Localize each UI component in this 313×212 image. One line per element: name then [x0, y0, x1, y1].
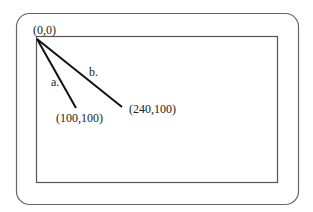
line-b-end-label: (240,100): [129, 102, 176, 116]
line-b-label: b.: [89, 65, 98, 79]
line-a: [37, 39, 76, 108]
line-b: [37, 39, 122, 107]
line-a-label: a.: [51, 75, 59, 89]
origin-label: (0,0): [33, 23, 56, 37]
diagram-canvas: (0,0) a. b. (100,100) (240,100): [0, 0, 313, 212]
line-a-end-label: (100,100): [56, 111, 103, 125]
